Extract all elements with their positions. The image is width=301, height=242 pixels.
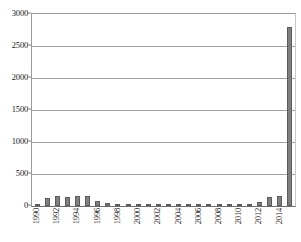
y-axis-tick-label: 1500	[12, 105, 28, 114]
x-axis-slot: 2000	[132, 208, 142, 242]
plot-area	[31, 13, 296, 207]
x-axis-slot: 2010	[233, 208, 243, 242]
bar-slot	[83, 14, 93, 206]
x-axis-slot: 1996	[92, 208, 102, 242]
bar[interactable]	[85, 196, 90, 206]
bar-slot	[234, 14, 244, 206]
x-axis-tick-label: 2008	[214, 208, 223, 224]
x-axis-slot: 2008	[213, 208, 223, 242]
x-axis-slot	[264, 208, 274, 242]
x-axis-slot	[162, 208, 172, 242]
bar-slot	[123, 14, 133, 206]
bar[interactable]	[237, 204, 242, 206]
bar[interactable]	[146, 204, 151, 206]
bar-slot	[275, 14, 285, 206]
bar[interactable]	[45, 198, 50, 206]
bar-slot	[214, 14, 224, 206]
x-axis-tick-label: 1992	[52, 208, 61, 224]
x-axis-slot	[41, 208, 51, 242]
bar-slot	[224, 14, 234, 206]
x-axis-slot: 1998	[112, 208, 122, 242]
y-axis-tick-label: 2000	[12, 73, 28, 82]
bar-slot	[62, 14, 72, 206]
x-axis-tick-label: 2014	[274, 208, 283, 224]
bar[interactable]	[267, 197, 272, 206]
bar-slot	[103, 14, 113, 206]
x-axis-slot	[102, 208, 112, 242]
bar-slot	[42, 14, 52, 206]
bar-slot	[32, 14, 42, 206]
x-axis-tick-label: 2006	[194, 208, 203, 224]
bar[interactable]	[75, 196, 80, 206]
x-axis-tick-label: 1998	[113, 208, 122, 224]
y-axis-tick-label: 500	[16, 169, 28, 178]
bar[interactable]	[186, 204, 191, 206]
bar-slot	[184, 14, 194, 206]
bar[interactable]	[55, 196, 60, 206]
bar[interactable]	[95, 201, 100, 206]
bar[interactable]	[247, 204, 252, 206]
bar[interactable]	[227, 204, 232, 206]
bar-slot	[93, 14, 103, 206]
x-axis-slot	[284, 208, 294, 242]
bar[interactable]	[65, 197, 70, 206]
bar-slot	[143, 14, 153, 206]
bar-slot	[72, 14, 82, 206]
bar[interactable]	[196, 204, 201, 206]
bar-slot	[174, 14, 184, 206]
bar-slot	[194, 14, 204, 206]
x-axis-slot	[223, 208, 233, 242]
x-axis-tick-label: 2000	[133, 208, 142, 224]
x-axis: 1990199219941996199820002002200420062008…	[31, 208, 294, 242]
x-axis-tick-label: 2004	[173, 208, 182, 224]
bar[interactable]	[126, 204, 131, 206]
y-axis-tick-label: 2500	[12, 41, 28, 50]
x-axis-tick-label: 2002	[153, 208, 162, 224]
bar[interactable]	[257, 202, 262, 206]
bar[interactable]	[156, 204, 161, 206]
x-axis-slot: 1994	[71, 208, 81, 242]
x-axis-slot: 2004	[173, 208, 183, 242]
bar-slot	[285, 14, 295, 206]
x-axis-slot	[82, 208, 92, 242]
x-axis-slot: 1990	[31, 208, 41, 242]
bar-slot	[133, 14, 143, 206]
x-axis-slot	[122, 208, 132, 242]
x-axis-slot: 2006	[193, 208, 203, 242]
x-axis-tick-label: 2010	[234, 208, 243, 224]
bar-slot	[265, 14, 275, 206]
bar[interactable]	[35, 204, 40, 206]
bar-slot	[244, 14, 254, 206]
x-axis-slot	[203, 208, 213, 242]
bar[interactable]	[217, 204, 222, 206]
x-axis-slot: 2014	[274, 208, 284, 242]
x-axis-tick-label: 1994	[72, 208, 81, 224]
bar[interactable]	[176, 204, 181, 206]
bars-series	[32, 14, 295, 206]
bar-slot	[254, 14, 264, 206]
bar[interactable]	[105, 203, 110, 206]
bar-slot	[113, 14, 123, 206]
x-axis-tick-label: 2012	[254, 208, 263, 224]
x-axis-slot: 2002	[152, 208, 162, 242]
bar[interactable]	[166, 204, 171, 206]
bar[interactable]	[287, 27, 292, 206]
bar[interactable]	[277, 196, 282, 206]
bar-slot	[52, 14, 62, 206]
y-axis-tick-label: 3000	[12, 9, 28, 18]
bar-chart: 050010001500200025003000 199019921994199…	[0, 0, 301, 242]
y-axis: 050010001500200025003000	[0, 0, 30, 242]
x-axis-tick-label: 1996	[92, 208, 101, 224]
bar[interactable]	[115, 204, 120, 206]
x-axis-slot: 1992	[51, 208, 61, 242]
y-axis-tick-label: 1000	[12, 137, 28, 146]
bar-slot	[204, 14, 214, 206]
bar[interactable]	[136, 204, 141, 206]
bar[interactable]	[206, 204, 211, 206]
x-axis-tick-label: 1990	[32, 208, 41, 224]
x-axis-slot: 2012	[253, 208, 263, 242]
bar-slot	[163, 14, 173, 206]
bar-slot	[153, 14, 163, 206]
x-axis-slot	[183, 208, 193, 242]
